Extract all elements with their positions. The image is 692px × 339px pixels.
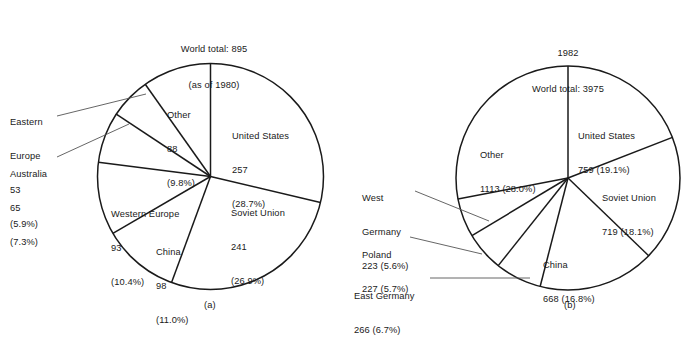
pie-a-label-other-name: Other <box>167 110 195 121</box>
pie-b-title-line2: World total: 3975 <box>495 83 641 95</box>
pie-b-title: 1982 World total: 3975 <box>495 23 641 119</box>
pie-a-label-other-percent: (9.8%) <box>167 178 195 189</box>
pie-b-label-china-name: China <box>543 260 595 271</box>
pie-b-caption: (b) <box>564 300 576 310</box>
pie-b-label-soviet-union-name: Soviet Union <box>602 193 656 204</box>
pie-a-title-line2: (as of 1980) <box>141 79 287 91</box>
pie-a-label-western-europe-percent: (10.4%) <box>111 277 179 288</box>
pie-a-label-other: Other 88 (9.8%) <box>167 87 195 212</box>
pie-b-label-other-value: 1113 (28.0%) <box>480 184 536 195</box>
pie-b-label-united-states-name: United States <box>578 131 635 142</box>
pie-a-label-soviet-union-value: 241 <box>231 242 285 253</box>
pie-b-label-soviet-union: Soviet Union 719 (18.1%) <box>602 170 656 261</box>
pie-a-label-eastern-europe-value: 53 <box>10 185 43 196</box>
pie-a-title: World total: 895 (as of 1980) <box>141 19 287 115</box>
pie-a-label-other-value: 88 <box>167 144 195 155</box>
pie-a-title-line1: World total: 895 <box>141 43 287 55</box>
pie-a-label-eastern-europe-name2: Europe <box>10 151 43 162</box>
pie-b-label-west-germany-name2: Germany <box>362 227 408 238</box>
pie-a-label-china-percent: (11.0%) <box>156 315 189 326</box>
pie-a-label-soviet-union-name: Soviet Union <box>231 208 285 219</box>
pie-a-label-western-europe-value: 93 <box>111 243 179 254</box>
pie-b-label-other-name: Other <box>480 150 536 161</box>
pie-a-label-eastern-europe: Eastern Europe 53 (5.9%) <box>10 94 43 254</box>
leader-line-poland <box>410 237 482 254</box>
pie-b-label-west-germany: West Germany 223 (5.6%) <box>362 170 408 295</box>
pie-b-label-west-germany-value: 223 (5.6%) <box>362 261 408 272</box>
pie-a-label-eastern-europe-name1: Eastern <box>10 117 43 128</box>
pie-b-label-china: China 668 (16.8%) <box>543 237 595 328</box>
pie-a-label-united-states-name: United States <box>232 131 289 142</box>
pie-b-label-west-germany-name1: West <box>362 193 408 204</box>
pie-a-caption: (a) <box>204 300 216 310</box>
pie-a-label-united-states-value: 257 <box>232 165 289 176</box>
pie-a-label-eastern-europe-percent: (5.9%) <box>10 219 43 230</box>
pie-a-label-soviet-union-percent: (26.9%) <box>231 276 285 287</box>
pie-b-label-other: Other 1113 (28.0%) <box>480 127 536 218</box>
pie-b-label-soviet-union-value: 719 (18.1%) <box>602 227 656 238</box>
pie-a-label-soviet-union: Soviet Union 241 (26.9%) <box>231 185 285 310</box>
pie-b-label-east-germany-value: 266 (6.7%) <box>354 325 415 336</box>
pie-b-title-line1: 1982 <box>495 47 641 59</box>
